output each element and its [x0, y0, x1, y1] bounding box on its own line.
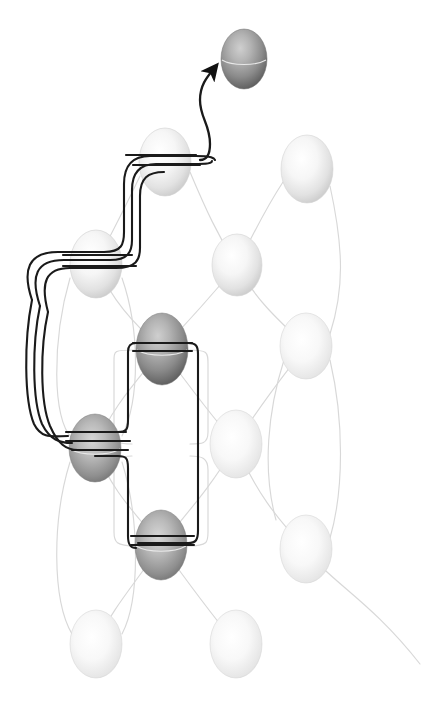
- output-arrow-stem: [200, 66, 216, 160]
- lattice-edge: [330, 360, 341, 538]
- sphere-c3-r5[interactable]: [280, 515, 332, 583]
- sphere-c2-r4[interactable]: [210, 410, 262, 478]
- nodes-group: [69, 29, 333, 678]
- lattice-edge: [268, 360, 284, 520]
- sphere-c1-r4[interactable]: [69, 414, 121, 482]
- sphere-c3-r1[interactable]: [281, 135, 333, 203]
- lattice-network-svg: target-sphere Lattice network of spheres…: [0, 0, 435, 704]
- highlight-edge-left-rail-b: [34, 306, 72, 443]
- target-sphere[interactable]: [221, 29, 267, 89]
- lattice-edge: [57, 278, 72, 438]
- sphere-c1-r6[interactable]: [70, 610, 122, 678]
- sphere-c1-r2[interactable]: [70, 230, 122, 298]
- sphere-c2-r6[interactable]: [210, 610, 262, 678]
- highlight-edge-left-rail-c: [42, 312, 78, 450]
- sphere-c2-r2[interactable]: [212, 234, 262, 296]
- sphere-c2-r3[interactable]: [136, 313, 188, 385]
- lattice-edge: [330, 186, 341, 334]
- sphere-c3-r3[interactable]: [280, 313, 332, 379]
- figure-canvas: target-sphere Lattice network of spheres…: [0, 0, 435, 704]
- lattice-edge: [57, 462, 72, 634]
- sphere-c2-r1[interactable]: [139, 128, 191, 196]
